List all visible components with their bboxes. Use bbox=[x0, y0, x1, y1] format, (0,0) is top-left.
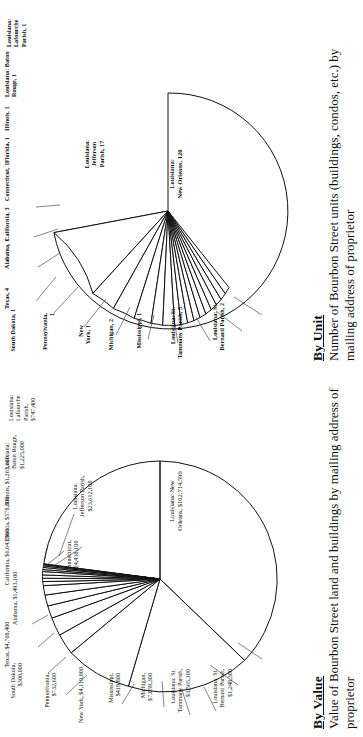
unit-label-michigan: Michigan, 2 bbox=[108, 319, 115, 369]
unit-label-new-orleans: Louisiana: New Orleans, 120 bbox=[168, 137, 184, 211]
unit-label-baton-rouge: Louisiana: Baton Rouge, 1 bbox=[4, 43, 19, 97]
value-label-alabama: Alabama, $1,493,100 bbox=[12, 551, 19, 625]
value-label-lafourche-parish: Louisiana: Lafourche Parish, $747,400 bbox=[8, 371, 38, 421]
by-value-subtitle: Value of Bourbon Street land and buildin… bbox=[326, 377, 357, 729]
value-label-michigan: Michigan, $7,059,300 bbox=[140, 673, 155, 729]
value-label-st-tammany-parish: Louisiana: St. Tammany Parish, $3,565,10… bbox=[170, 669, 192, 735]
unit-label-jefferson-parish: Louisiana: Jefferson Parish, 17 bbox=[84, 125, 106, 183]
by-value-title-block: By Value Value of Bourbon Street land an… bbox=[310, 377, 357, 729]
by-unit-title: By Unit bbox=[310, 9, 326, 361]
value-label-new-york: New York, $4,119,900 bbox=[78, 667, 85, 737]
document-page: South Dakota, $300,000 Pennsylvania, $73… bbox=[0, 0, 363, 737]
slice-outline-close bbox=[44, 461, 160, 579]
value-label-jefferson-parish: Louisiana: Jefferson Parish, $23,612,100 bbox=[72, 463, 94, 529]
value-label-new-orleans: Louisiana: New Orleans, $102,714,590 bbox=[168, 461, 184, 541]
value-label-st-bernard-parish: Louisiana: St. Bernard Parish, $1,248,30… bbox=[212, 669, 234, 731]
value-label-baton-rouge: Louisiana: Baton Rouge, $1,225,000 bbox=[4, 413, 26, 469]
rotated-page: South Dakota, $300,000 Pennsylvania, $73… bbox=[0, 0, 363, 737]
by-value-title: By Value bbox=[310, 377, 326, 729]
unit-label-st-bernard-parish: Louisiana: St. Bernard Parish, 2 bbox=[212, 303, 227, 363]
unit-label-st-tammany-parish: Louisiana: St. Tammany Parish, 5 bbox=[170, 307, 185, 369]
unit-label-new-york: New York, 1 bbox=[78, 325, 93, 365]
by-unit-title-block: By Unit Number of Bourbon Street units (… bbox=[310, 9, 357, 361]
value-label-mississippi: Mississippi, $419,800 bbox=[108, 673, 123, 731]
value-label-texas: Texas, $4,708,400 bbox=[4, 597, 11, 667]
chart-panel-by-value: South Dakota, $300,000 Pennsylvania, $73… bbox=[0, 369, 363, 737]
value-label-south-dakota: South Dakota, $300,000 bbox=[10, 663, 25, 729]
value-label-pennsylvania: Pennsylvania, $732,600 bbox=[44, 673, 59, 735]
unit-label-lafourche-parish: Louisiana: Lafourche Parish, 1 bbox=[6, 3, 28, 47]
unit-label-mississippi: Mississippi, 1 bbox=[136, 313, 143, 369]
chart-panel-by-unit: South Dakota, 1 Pennsylvania, 1 New York… bbox=[0, 1, 363, 369]
value-label-connecticut: Connecticut, $24,438,100 bbox=[66, 525, 81, 587]
by-unit-subtitle: Number of Bourbon Street units (building… bbox=[326, 9, 357, 361]
unit-label-south-dakota: South Dakota, 1 bbox=[10, 309, 17, 369]
unit-label-pennsylvania: Pennsylvania, 1 bbox=[42, 313, 57, 369]
